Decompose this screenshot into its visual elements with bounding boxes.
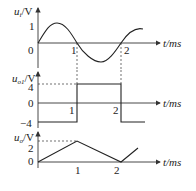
ytick-2: 2 — [28, 142, 34, 154]
panel-output1: uo1/V 4 0 −4 1 2 t/ms — [12, 70, 181, 129]
ytick-0: 0 — [28, 155, 34, 167]
xtick-2: 2 — [124, 44, 130, 56]
sine-curve — [38, 23, 143, 62]
ylabel-ui: ui/V — [14, 5, 33, 19]
xlabel-t: t/ms — [163, 37, 181, 49]
panel-output: uo/V 2 0 1 2 t/ms — [14, 131, 181, 176]
xtick-2: 2 — [113, 104, 119, 116]
origin-0: 0 — [28, 44, 34, 56]
xtick-2: 2 — [114, 164, 120, 176]
xtick-1: 1 — [71, 44, 77, 56]
xlabel-t: t/ms — [163, 156, 181, 168]
xtick-1: 1 — [75, 164, 81, 176]
triangle-wave — [38, 141, 138, 162]
xlabel-t: t/ms — [163, 97, 181, 109]
waveform-svg: ui/V 1 0 1 2 t/ms uo1/V 4 0 −4 1 2 t/ms … — [0, 0, 196, 191]
panel-input: ui/V 1 0 1 2 t/ms — [14, 5, 181, 70]
ytick-4: 4 — [28, 81, 34, 93]
ytick-0: 0 — [28, 97, 34, 109]
xtick-1: 1 — [69, 104, 75, 116]
ytick-neg4: −4 — [20, 117, 32, 129]
ytick-1: 1 — [29, 20, 35, 32]
waveform-diagram: ui/V 1 0 1 2 t/ms uo1/V 4 0 −4 1 2 t/ms … — [0, 0, 196, 191]
